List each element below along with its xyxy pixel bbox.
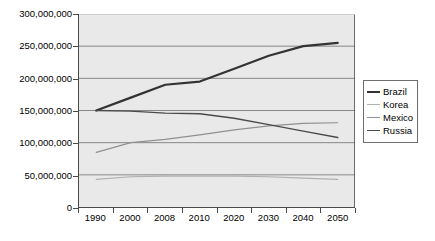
- x-axis-tick-mark: [147, 208, 148, 213]
- x-axis-tick-label: 2040: [292, 212, 313, 223]
- x-axis-tick-label: 2000: [119, 212, 140, 223]
- chart-legend: BrazilKoreaMexicoRussia: [363, 80, 418, 143]
- x-axis-tick-label: 2008: [154, 212, 175, 223]
- y-axis: 050,000,000100,000,000150,000,000200,000…: [0, 0, 72, 241]
- legend-item-korea[interactable]: Korea: [364, 98, 417, 111]
- legend-item-brazil[interactable]: Brazil: [364, 85, 417, 98]
- x-axis-tick-mark: [182, 208, 183, 213]
- y-axis-tick-label: 300,000,000: [0, 9, 72, 19]
- y-axis-tick-label: 200,000,000: [0, 74, 72, 84]
- x-axis-tick-mark: [355, 208, 356, 213]
- x-axis-tick-label: 2050: [327, 212, 348, 223]
- x-axis-tick-mark: [251, 208, 252, 213]
- legend-item-mexico[interactable]: Mexico: [364, 111, 417, 124]
- population-projection-line-chart: 050,000,000100,000,000150,000,000200,000…: [0, 0, 435, 241]
- x-axis-tick-mark: [286, 208, 287, 213]
- legend-label: Brazil: [383, 85, 407, 98]
- y-axis-tick-label: 150,000,000: [0, 106, 72, 116]
- series-line-korea: [96, 176, 338, 179]
- legend-line-swatch-icon: [367, 130, 380, 131]
- x-axis-tick-mark: [78, 208, 79, 213]
- legend-line-swatch-icon: [367, 91, 380, 93]
- plot-area: [78, 14, 355, 208]
- legend-label: Mexico: [383, 111, 413, 124]
- x-axis-tick-label: 2030: [258, 212, 279, 223]
- legend-line-swatch-icon: [367, 117, 380, 118]
- legend-label: Korea: [383, 98, 408, 111]
- legend-label: Russia: [383, 124, 412, 137]
- series-line-brazil: [96, 43, 338, 111]
- legend-line-swatch-icon: [367, 104, 380, 105]
- legend-item-russia[interactable]: Russia: [364, 124, 417, 137]
- y-axis-tick-label: 250,000,000: [0, 41, 72, 51]
- x-axis-tick-label: 2010: [189, 212, 210, 223]
- series-line-mexico: [96, 123, 338, 153]
- y-axis-tick-label: 50,000,000: [0, 171, 72, 181]
- plot-canvas: [79, 14, 355, 207]
- y-axis-tick-label: 0: [0, 203, 72, 213]
- x-axis-tick-label: 1990: [85, 212, 106, 223]
- y-axis-tick-label: 100,000,000: [0, 138, 72, 148]
- x-axis-tick-mark: [113, 208, 114, 213]
- x-axis: 19902000200820102020203020402050: [78, 212, 355, 228]
- x-axis-tick-mark: [217, 208, 218, 213]
- x-axis-tick-mark: [320, 208, 321, 213]
- x-axis-tick-label: 2020: [223, 212, 244, 223]
